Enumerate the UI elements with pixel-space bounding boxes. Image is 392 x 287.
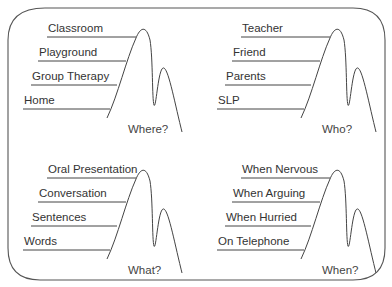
item-label: Home (24, 94, 55, 106)
item-label: On Telephone (218, 235, 289, 247)
item-label: Teacher (242, 22, 283, 34)
item-label: When Nervous (242, 163, 318, 175)
item-label: Conversation (39, 187, 107, 199)
item-label: Friend (233, 46, 266, 58)
bimodal-curve (107, 170, 182, 273)
item-label: Parents (226, 70, 266, 82)
item-label: Playground (39, 46, 97, 58)
bimodal-curve (301, 170, 376, 273)
bimodal-curve (107, 29, 182, 132)
panel-where: ClassroomPlaygroundGroup TherapyHomeWher… (23, 22, 182, 135)
item-label: Oral Presentation (48, 163, 138, 175)
panel-when: When NervousWhen ArguingWhen HurriedOn T… (217, 163, 376, 276)
item-label: When Arguing (233, 187, 305, 199)
item-label: Sentences (32, 211, 87, 223)
item-label: When Hurried (226, 211, 297, 223)
question-label: Who? (322, 123, 352, 135)
bimodal-curve (301, 29, 376, 132)
panel-who: TeacherFriendParentsSLPWho? (217, 22, 376, 135)
question-label: Where? (128, 123, 168, 135)
diagram-canvas: ClassroomPlaygroundGroup TherapyHomeWher… (0, 0, 392, 287)
item-label: Classroom (48, 22, 103, 34)
item-label: Group Therapy (32, 70, 109, 82)
item-label: SLP (218, 94, 240, 106)
panel-what: Oral PresentationConversationSentencesWo… (23, 163, 182, 276)
question-label: When? (322, 264, 358, 276)
question-label: What? (128, 264, 161, 276)
item-label: Words (24, 235, 57, 247)
